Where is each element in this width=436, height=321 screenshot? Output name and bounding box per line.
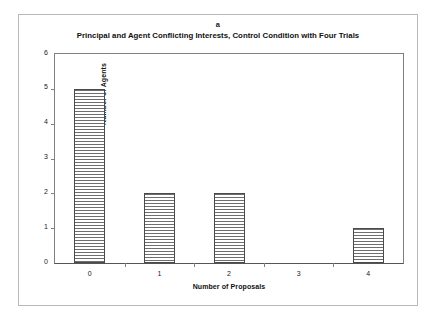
figure-panel: a Principal and Agent Conflicting Intere…	[18, 14, 418, 306]
y-tick: 2	[15, 193, 55, 194]
y-tick-label: 3	[28, 153, 48, 160]
y-tick-label: 1	[28, 223, 48, 230]
chart-title-block: a Principal and Agent Conflicting Intere…	[19, 20, 417, 41]
y-tick: 4	[15, 124, 55, 125]
y-tick: 1	[15, 228, 55, 229]
x-tick-mark	[264, 263, 265, 267]
y-tick: 0	[15, 263, 55, 264]
y-tick: 5	[15, 89, 55, 90]
y-tick: 6	[15, 54, 55, 55]
plot-area: Number of Agents 6543210 01234	[54, 53, 404, 264]
x-tick-label: 2	[214, 270, 244, 277]
x-tick-mark	[333, 263, 334, 267]
x-tick-label: 0	[75, 270, 105, 277]
y-tick-label: 2	[28, 188, 48, 195]
x-tick-mark	[125, 263, 126, 267]
bar	[353, 228, 384, 263]
x-tick-label: 1	[144, 270, 174, 277]
y-tick-label: 5	[28, 83, 48, 90]
bar	[214, 193, 245, 263]
x-tick-mark	[194, 263, 195, 267]
x-tick-label: 3	[284, 270, 314, 277]
y-tick-label: 4	[28, 118, 48, 125]
bar	[144, 193, 175, 263]
x-axis-label: Number of Proposals	[54, 283, 404, 290]
panel-letter: a	[19, 20, 417, 30]
y-tick-label: 0	[28, 258, 48, 265]
y-tick: 3	[15, 159, 55, 160]
bar	[74, 89, 105, 263]
bars-layer	[55, 54, 403, 263]
x-tick-label: 4	[353, 270, 383, 277]
y-tick-label: 6	[28, 49, 48, 56]
chart-title: Principal and Agent Conflicting Interest…	[19, 30, 417, 41]
